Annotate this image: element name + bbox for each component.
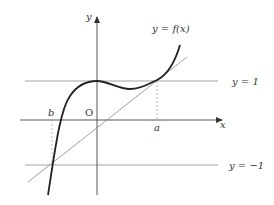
point-b-label: b bbox=[48, 107, 54, 118]
function-graph: y x O y = f(x) y = 1 y = −1 a b bbox=[0, 0, 274, 205]
origin-label: O bbox=[85, 107, 93, 118]
point-a-label: a bbox=[154, 122, 160, 133]
x-axis-label: x bbox=[220, 119, 226, 130]
line-y-minus-1-label: y = −1 bbox=[228, 160, 264, 171]
curve-label: y = f(x) bbox=[151, 23, 190, 34]
y-axis-label: y bbox=[85, 11, 92, 22]
line-y-1-label: y = 1 bbox=[231, 76, 259, 87]
